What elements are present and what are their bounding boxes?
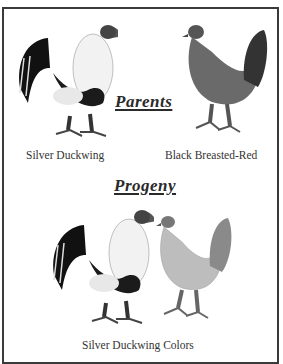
silver-duckwing-rooster-image — [8, 18, 118, 148]
silver-duckwing-caption: Silver Duckwing — [26, 149, 104, 161]
progeny-caption: Silver Duckwing Colors — [82, 339, 194, 351]
progeny-heading: Progeny — [114, 176, 176, 196]
black-breasted-red-hen-image — [182, 22, 272, 147]
black-breasted-red-caption: Black Breasted-Red — [165, 149, 257, 161]
progeny-silver-duckwing-rooster-image — [44, 205, 154, 333]
progeny-silver-duckwing-hen-image — [152, 212, 237, 332]
parents-heading: Parents — [115, 92, 172, 112]
